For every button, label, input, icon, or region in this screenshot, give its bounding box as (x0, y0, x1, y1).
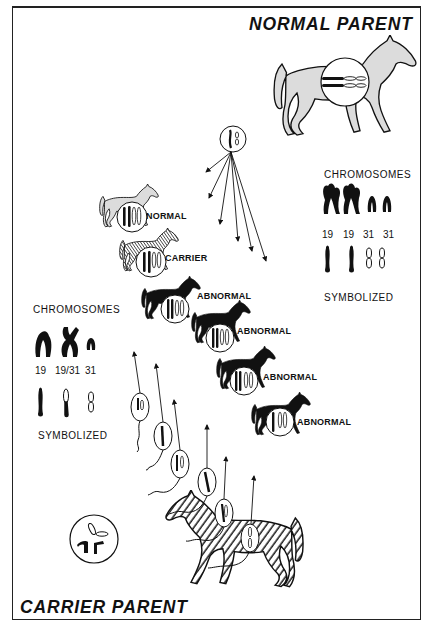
normal-key-number-1: 19 (322, 229, 333, 240)
offspring-label-abnormal-2: ABNORMAL (237, 326, 291, 336)
normal-key-number-4: 31 (383, 229, 394, 240)
normal-key-number-2: 19 (343, 229, 354, 240)
diagram-artwork (0, 0, 434, 630)
carrier-key-number-2: 19/31 (55, 365, 80, 376)
carrier-key-chromosomes (35, 327, 95, 357)
normal-key-chromosomes (323, 184, 391, 214)
offspring-label-abnormal-4: ABNORMAL (297, 417, 351, 427)
offspring-carrier-circle (136, 247, 166, 277)
offspring-label-abnormal-3: ABNORMAL (263, 372, 317, 382)
normal-parent-chromosome-circle (321, 58, 369, 106)
carrier-key-heading: CHROMOSOMES (33, 304, 120, 315)
offspring-abnormal-circle-3 (230, 367, 258, 395)
offspring-abnormal-circle-4 (266, 408, 294, 436)
offspring-label-carrier: CARRIER (165, 253, 207, 263)
normal-parent-title: NORMAL PARENT (249, 13, 413, 35)
carrier-key-footer: SYMBOLIZED (38, 430, 107, 441)
carrier-key-number-3: 31 (85, 365, 96, 376)
carrier-parent-chromosome-circle (70, 515, 118, 563)
offspring-abnormal-circle-2 (206, 324, 234, 352)
carrier-parent-horse (166, 490, 303, 587)
offspring-abnormal-circle-1 (161, 295, 189, 323)
normal-key-symbolized (326, 247, 385, 272)
carrier-gamete-2 (146, 364, 172, 470)
carrier-key-symbolized (39, 389, 94, 417)
normal-key-footer: SYMBOLIZED (324, 292, 393, 303)
carrier-key-number-1: 19 (35, 365, 46, 376)
normal-gamete-arrows (206, 126, 266, 261)
offspring-normal-circle (117, 202, 147, 232)
normal-key-number-3: 31 (363, 229, 374, 240)
normal-key-heading: CHROMOSOMES (324, 169, 411, 180)
offspring-label-normal: NORMAL (146, 211, 187, 221)
offspring-label-abnormal-1: ABNORMAL (197, 291, 251, 301)
carrier-gamete-1 (131, 352, 149, 452)
carrier-parent-title: CARRIER PARENT (20, 596, 188, 618)
